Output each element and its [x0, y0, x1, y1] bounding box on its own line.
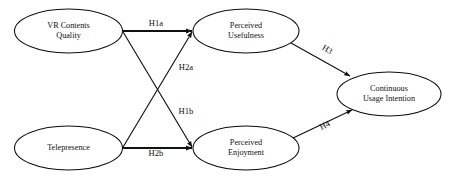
research-model-diagram: VR ContentsQualityTelepresencePerceivedU… — [0, 0, 456, 180]
edge-label-h1a: H1a — [149, 18, 164, 28]
edge-label-h3: H3 — [320, 42, 334, 56]
node-telepresence: Telepresence — [15, 126, 123, 170]
node-label-vr-contents-quality: Quality — [56, 31, 81, 40]
edge-h3 — [291, 43, 350, 76]
node-label-perceived-enjoyment: Perceived — [230, 138, 262, 147]
node-label-perceived-usefulness: Perceived — [230, 21, 262, 30]
node-perceived-usefulness: PerceivedUsefulness — [193, 9, 299, 53]
node-label-perceived-enjoyment: Enjoyment — [228, 148, 265, 157]
node-label-perceived-usefulness: Usefulness — [228, 31, 264, 40]
edge-label-h2b: H2b — [149, 148, 164, 158]
node-perceived-enjoyment: PerceivedEnjoyment — [193, 126, 299, 170]
edge-label-h2a: H2a — [179, 62, 194, 72]
node-label-continuous-usage-intention: Continuous — [370, 84, 408, 93]
nodes-group: VR ContentsQualityTelepresencePerceivedU… — [15, 9, 442, 170]
node-vr-contents-quality: VR ContentsQuality — [15, 9, 123, 53]
edge-label-h1b: H1b — [179, 106, 194, 116]
node-label-telepresence: Telepresence — [47, 143, 90, 152]
node-label-vr-contents-quality: VR Contents — [47, 21, 90, 30]
node-continuous-usage-intention: ContinuousUsage Intention — [337, 72, 441, 116]
diagram-canvas: VR ContentsQualityTelepresencePerceivedU… — [0, 0, 456, 180]
node-label-continuous-usage-intention: Usage Intention — [363, 94, 415, 103]
